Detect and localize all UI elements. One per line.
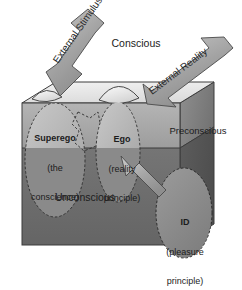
id-structure (156, 168, 212, 258)
id-ellipse (156, 168, 212, 258)
